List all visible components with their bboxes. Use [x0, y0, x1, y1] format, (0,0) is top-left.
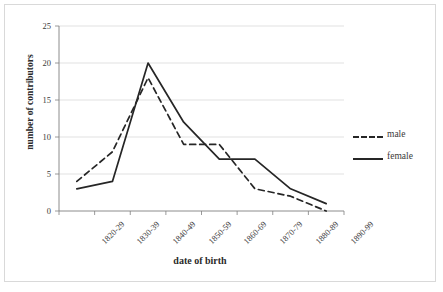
- y-tick-label: 15: [25, 96, 51, 104]
- legend-item-male: male: [353, 127, 437, 149]
- y-tick-label: 0: [25, 207, 51, 215]
- line-chart: number of contributors date of birth mal…: [5, 5, 437, 283]
- legend-label-male: male: [387, 129, 405, 139]
- legend-swatch-dashed-icon: [353, 136, 383, 138]
- y-tick-label: 10: [25, 133, 51, 141]
- x-axis-title: date of birth: [55, 255, 345, 266]
- chart-frame: number of contributors date of birth mal…: [4, 4, 436, 282]
- legend-swatch-solid-icon: [353, 158, 383, 160]
- y-tick-label: 20: [25, 59, 51, 67]
- legend-label-female: female: [387, 151, 413, 161]
- legend-item-female: female: [353, 149, 437, 171]
- series-line-male: [77, 78, 326, 211]
- y-tick-label: 5: [25, 170, 51, 178]
- y-tick-label: 25: [25, 22, 51, 30]
- chart-legend: male female: [353, 127, 437, 171]
- series-line-female: [77, 63, 326, 204]
